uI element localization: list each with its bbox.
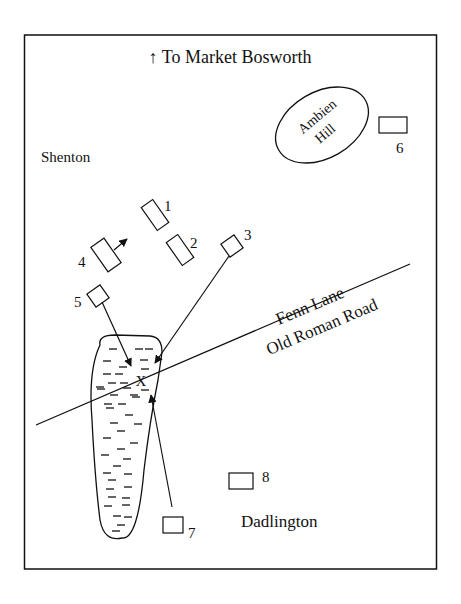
marker-7-box <box>163 517 183 533</box>
hill-outline <box>262 71 382 178</box>
marker-5-label: 5 <box>74 294 82 310</box>
marker-5-box <box>87 285 109 307</box>
marsh-outline <box>91 335 162 539</box>
marker-8-box <box>229 473 253 489</box>
title-to-market-bosworth: ↑ To Market Bosworth <box>149 47 312 67</box>
marker-3-box <box>221 235 243 257</box>
arrow-7-to-x <box>151 395 172 507</box>
ambien-hill: Ambien Hill <box>262 71 382 178</box>
marker-6-label: 6 <box>396 140 404 156</box>
marker-7-label: 7 <box>188 525 196 541</box>
marker-6-box <box>379 117 407 133</box>
marsh <box>91 335 162 539</box>
marker-4-box <box>91 238 121 272</box>
marker-2-label: 2 <box>190 235 198 251</box>
battlefield-map: ↑ To Market Bosworth Shenton Ambien Hill… <box>0 0 461 604</box>
marker-1-label: 1 <box>164 198 172 214</box>
marker-3-label: 3 <box>244 227 252 243</box>
arrow-5-to-x <box>102 302 131 366</box>
place-shenton: Shenton <box>41 149 91 165</box>
marker-8-label: 8 <box>262 469 270 485</box>
place-dadlington: Dadlington <box>241 512 318 531</box>
marker-4-arrow <box>114 239 127 250</box>
marker-4-label: 4 <box>78 254 86 270</box>
cross-mark: X <box>136 373 147 389</box>
road-fenn-lane <box>36 264 410 425</box>
